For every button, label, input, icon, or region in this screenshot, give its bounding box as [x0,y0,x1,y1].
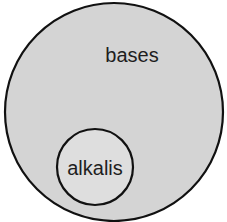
inner-set-alkalis: alkalis [57,129,133,205]
alkalis-label: alkalis [67,157,123,179]
bases-label: bases [105,44,158,66]
venn-diagram: bases alkalis [0,0,227,222]
